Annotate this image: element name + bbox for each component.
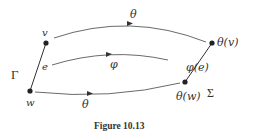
vertex-theta-w [182, 79, 187, 84]
vertex-w [27, 88, 32, 93]
label-e: e [42, 61, 48, 72]
label-map-theta-bottom: θ [82, 98, 89, 111]
arrowhead-theta-top-icon [127, 21, 133, 26]
label-w: w [26, 97, 35, 108]
label-gamma: Γ [11, 67, 19, 82]
map-theta-w [35, 83, 180, 95]
label-map-theta-top: θ [130, 8, 137, 21]
label-sigma: Σ [207, 86, 214, 100]
label-theta-w: θ(w) [176, 90, 201, 103]
label-phi-e: φ(e) [186, 61, 209, 74]
arrowhead-theta-bottom-icon [87, 91, 93, 96]
figure-caption: Figure 10.13 [94, 121, 145, 131]
map-theta-v [54, 26, 206, 42]
label-theta-v: θ(v) [217, 36, 238, 49]
label-map-phi: φ [110, 58, 118, 71]
label-v: v [42, 27, 48, 38]
vertex-theta-v [209, 40, 214, 45]
vertex-v [43, 40, 48, 45]
graph-morphism-diagram: v w e Γ θ(v) θ(w) φ(e) Σ θ φ θ Figure 10… [0, 0, 254, 138]
